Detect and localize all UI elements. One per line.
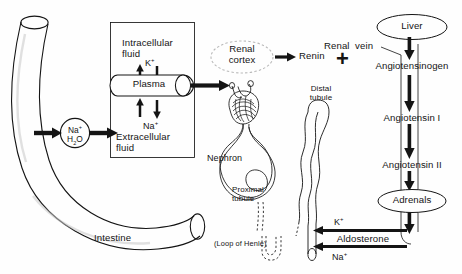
exchange-sodium-symbol: Na [332, 252, 344, 262]
exchange-sodium-charge: + [344, 251, 348, 257]
renal-cortex-line1: Renal [229, 43, 255, 54]
extracellular-fluid-line2: fluid [116, 142, 134, 153]
exchange-potassium-charge: + [340, 216, 344, 222]
extracellular-fluid-label: Extracellularfluid [116, 132, 170, 153]
potassium-charge: + [151, 57, 155, 63]
renal-cortex-line2: cortex [229, 54, 256, 65]
proximal-tubule-line2: tubule [232, 194, 254, 203]
uptake-water-o: O [76, 134, 83, 144]
proximal-tubule-line1: Proximal [232, 185, 264, 194]
angiotensinogen-label: Angiotensinogen [353, 61, 462, 72]
intestine-label: Intestine [94, 233, 131, 244]
cortex-to-renin-arrow [275, 52, 296, 61]
proximal-tubule-label: Proximaltubule [232, 186, 264, 204]
renin-label: Renin [299, 51, 325, 62]
intracellular-fluid-line2: fluid [122, 48, 140, 59]
renal-vein-shape [381, 44, 418, 244]
diagram-canvas: Intracellularfluid K+ Plasma Na+ Extrace… [0, 0, 462, 274]
distal-tubule-line2: tubule [310, 93, 332, 102]
extracellular-sodium-symbol: Na [143, 121, 155, 131]
renal-vein-label: Renal vein [324, 41, 373, 52]
distal-tubule-label: Distaltubule [302, 85, 340, 103]
loop-of-henle-label: (Loop of Henle) [214, 240, 266, 248]
plasma-label: Plasma [118, 79, 180, 90]
angiotensin-ii-label: Angiotensin II [358, 160, 462, 171]
sodium-flux-arrows [136, 98, 161, 119]
intracellular-fluid-line1: Intracellular [122, 37, 173, 48]
exchange-potassium-label: K+ [334, 216, 344, 227]
nephron-label: Nephron [207, 153, 242, 163]
uptake-sodium-charge: + [79, 124, 82, 130]
liver-label: Liver [387, 21, 437, 32]
distal-tubule-line1: Distal [311, 84, 332, 93]
plasma-to-nephron-arrow [191, 80, 230, 91]
aldosterone-label: Aldosterone [320, 234, 406, 245]
extracellular-sodium-label: Na+ [143, 120, 158, 131]
extracellular-sodium-charge: + [155, 120, 159, 126]
extracellular-fluid-line1: Extracellular [116, 131, 170, 142]
exchange-sodium-label: Na+ [332, 251, 347, 262]
adrenals-label: Adrenals [387, 195, 437, 206]
potassium-ion-label: K+ [145, 57, 155, 68]
sodium-water-label: Na+H2O [61, 124, 89, 146]
renal-cortex-label: Renalcortex [216, 44, 268, 65]
angiotensin-i-label: Angiotensin I [360, 113, 462, 124]
